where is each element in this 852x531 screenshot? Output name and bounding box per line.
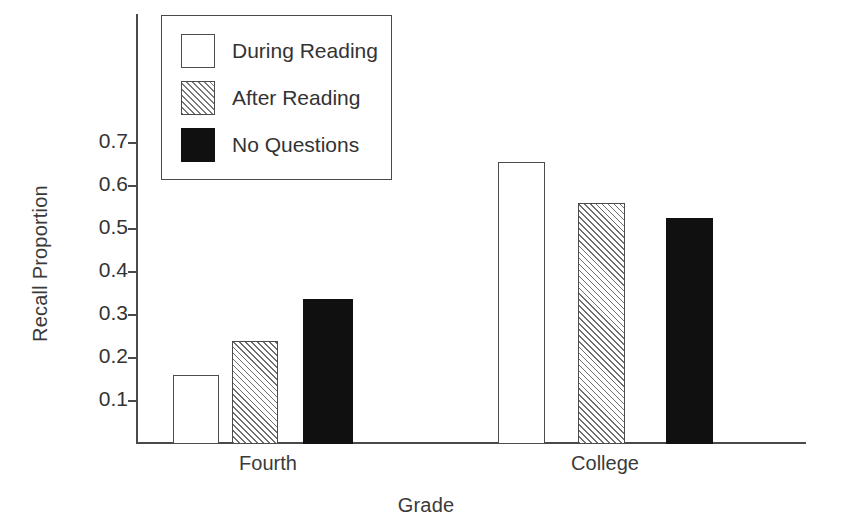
y-tick-mark [128,357,137,359]
bar-chart-figure: Recall Proportion 0.70.60.50.40.30.20.1 … [0,0,852,531]
bar-college-no-questions [666,218,713,444]
legend-item[interactable]: During Reading [181,34,378,68]
legend-label: After Reading [232,86,360,110]
y-tick-label: 0.1 [66,387,128,411]
x-group-label-fourth: Fourth [183,452,353,475]
y-tick-mark [128,228,137,230]
y-tick-mark [128,142,137,144]
bar-college-after-reading [578,203,625,444]
bar-college-during-reading [498,162,545,444]
legend-label: During Reading [232,39,378,63]
x-axis-title: Grade [0,494,852,517]
legend-item[interactable]: After Reading [181,81,360,115]
y-tick-label: 0.4 [66,258,128,282]
y-tick-label: 0.2 [66,344,128,368]
legend-label: No Questions [232,133,359,157]
legend-swatch-solid [181,128,215,162]
bar-fourth-during-reading [173,375,219,444]
y-tick-label: 0.7 [66,129,128,153]
y-tick-label: 0.6 [66,172,128,196]
y-tick-label: 0.5 [66,215,128,239]
x-group-label-college: College [520,452,690,475]
chart-legend: During ReadingAfter ReadingNo Questions [161,15,392,180]
bar-fourth-no-questions [303,299,353,444]
y-tick-mark [128,314,137,316]
legend-item[interactable]: No Questions [181,128,359,162]
y-tick-mark [128,400,137,402]
legend-swatch-open [181,34,215,68]
y-tick-label: 0.3 [66,301,128,325]
y-tick-mark [128,185,137,187]
legend-swatch-hatch [181,81,215,115]
bar-fourth-after-reading [232,341,278,444]
y-tick-mark [128,271,137,273]
y-axis-title: Recall Proportion [29,144,52,384]
